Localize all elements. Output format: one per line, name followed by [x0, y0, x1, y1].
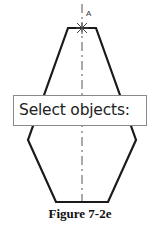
figure-caption: Figure 7-2e: [0, 206, 160, 222]
point-label-a: A: [86, 9, 91, 18]
command-prompt-tooltip: Select objects:: [13, 95, 147, 126]
snap-marker-icon: [76, 22, 88, 34]
tooltip-text: Select objects:: [19, 101, 130, 119]
